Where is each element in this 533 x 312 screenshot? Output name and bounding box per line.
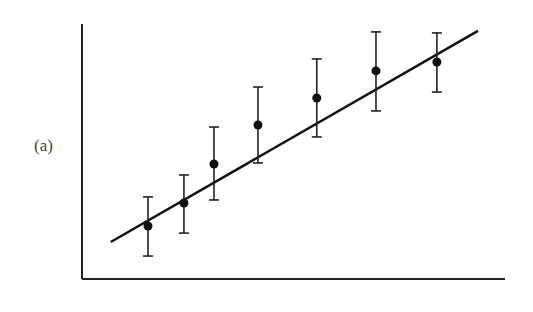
- scatter-chart: [0, 0, 533, 312]
- axes: [82, 24, 505, 279]
- fit-line-segment: [111, 31, 478, 242]
- data-point: [179, 199, 188, 208]
- error-bars: [143, 32, 442, 256]
- data-point: [209, 159, 218, 168]
- data-point: [432, 57, 441, 66]
- data-point: [253, 120, 262, 129]
- fit-line: [111, 31, 478, 242]
- data-point: [371, 66, 380, 75]
- data-point: [312, 93, 321, 102]
- data-point: [143, 221, 152, 230]
- data-points: [143, 57, 441, 230]
